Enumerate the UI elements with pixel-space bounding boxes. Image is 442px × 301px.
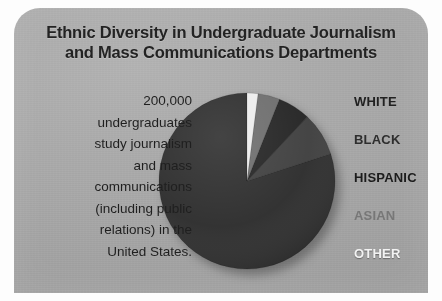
legend-item-hispanic: HISPANIC [354,168,428,206]
legend-item-white: WHITE [354,92,428,130]
caption-block: 200,000 undergraduates study journalism … [24,90,192,262]
legend-item-black: BLACK [354,130,428,168]
legend: WHITEBLACKHISPANICASIANOTHER [354,92,428,282]
title-line-2: and Mass Communications Departments [14,42,428,62]
infographic-card: Ethnic Diversity in Undergraduate Journa… [14,8,428,293]
infographic-screen: Ethnic Diversity in Undergraduate Journa… [0,0,442,301]
caption-line-2: undergraduates [24,112,192,134]
caption-line-6: (including public [24,198,192,220]
caption-line-4: and mass [24,155,192,177]
legend-item-asian: ASIAN [354,206,428,244]
caption-line-8: United States. [24,241,192,263]
caption-line-7: relations) in the [24,219,192,241]
caption-line-5: communications [24,176,192,198]
page-title: Ethnic Diversity in Undergraduate Journa… [14,22,428,62]
legend-item-other: OTHER [354,244,428,282]
caption-line-3: study journalism [24,133,192,155]
title-line-1: Ethnic Diversity in Undergraduate Journa… [14,22,428,42]
caption-line-1: 200,000 [24,90,192,112]
